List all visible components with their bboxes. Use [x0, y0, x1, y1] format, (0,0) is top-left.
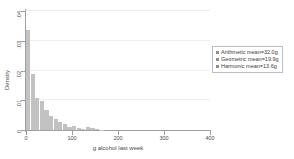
histogram-figure: Density 0.01.02.03.04 0100200300400 g al… — [0, 0, 294, 159]
histogram-bar — [90, 128, 94, 130]
histogram-bar — [31, 74, 35, 130]
histogram-bar — [26, 30, 30, 130]
plot-area — [26, 11, 210, 130]
histogram-bar — [81, 129, 85, 130]
histogram-bar — [86, 127, 90, 130]
histogram-bar — [100, 130, 104, 131]
histogram-bar — [54, 119, 58, 130]
histogram-bar — [58, 122, 62, 130]
x-tick-label: 100 — [67, 135, 76, 142]
x-tick-label: 0 — [24, 135, 27, 142]
histogram-bar — [95, 129, 99, 130]
legend-item-label: Harmonic mean=13.6g — [221, 63, 277, 70]
y-tick-label: .01 — [16, 100, 22, 108]
histogram-bar — [40, 101, 44, 130]
legend-marker-icon — [216, 58, 219, 61]
histogram-bar — [44, 110, 48, 130]
legend-marker-icon — [216, 65, 219, 68]
x-tick-label: 400 — [205, 135, 214, 142]
legend-item-harmonic-mean: Harmonic mean=13.6g — [216, 63, 279, 70]
y-tick-label: .04 — [16, 11, 22, 19]
histogram-bar — [49, 116, 53, 130]
y-tick-label: .02 — [16, 71, 22, 79]
legend-item-arithmetic-mean: Arithmetic mean=32.0g — [216, 49, 279, 56]
histogram-bars — [26, 11, 210, 130]
legend-marker-icon — [216, 51, 219, 54]
histogram-bar — [35, 98, 39, 130]
y-tick-label: 0 — [16, 130, 22, 133]
legend-box: Arithmetic mean=32.0g Geometric mean=19.… — [212, 46, 283, 73]
legend-item-label: Arithmetic mean=32.0g — [221, 49, 278, 56]
x-tick-label: 200 — [113, 135, 122, 142]
histogram-bar — [72, 126, 76, 130]
x-tick-label: 300 — [159, 135, 168, 142]
histogram-bar — [63, 124, 67, 130]
y-tick-label: .03 — [16, 41, 22, 49]
legend-item-label: Geometric mean=19.9g — [221, 56, 279, 63]
histogram-bar — [67, 127, 71, 130]
legend-item-geometric-mean: Geometric mean=19.9g — [216, 56, 279, 63]
x-axis-title: g alcohol last week — [93, 144, 144, 152]
histogram-bar — [77, 128, 81, 130]
